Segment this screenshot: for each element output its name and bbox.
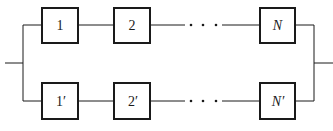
block-2-prime-label: 2′ xyxy=(128,94,138,109)
block-1-label: 1 xyxy=(57,18,64,33)
ellipsis-dot xyxy=(202,100,205,103)
ellipsis-dot xyxy=(202,24,205,27)
block-2-label: 2 xyxy=(129,18,136,33)
block-N-label: N xyxy=(272,18,283,33)
ellipsis-dot xyxy=(190,24,193,27)
reliability-diagram: 1 2 N 1′ 2′ N′ xyxy=(0,0,333,131)
ellipsis-dot xyxy=(190,100,193,103)
block-1-prime-label: 1′ xyxy=(56,94,66,109)
ellipsis-dot xyxy=(215,24,218,27)
ellipsis-dot xyxy=(215,100,218,103)
block-N-prime-label: N′ xyxy=(271,94,285,109)
